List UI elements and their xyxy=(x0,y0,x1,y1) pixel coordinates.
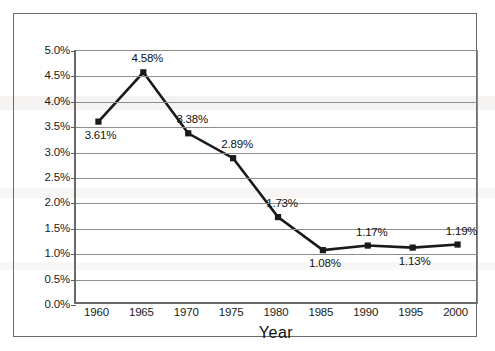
data-point-label: 1.08% xyxy=(309,257,341,269)
y-axis-tick-labels: 0.0%0.5%1.0%1.5%2.0%2.5%3.0%3.5%4.0%4.5%… xyxy=(27,50,70,304)
data-point-marker xyxy=(185,130,191,136)
x-axis-tick-label: 1975 xyxy=(219,306,244,318)
y-axis-tick-label: 1.5% xyxy=(45,222,70,234)
y-axis-tick-label: 3.0% xyxy=(45,146,70,158)
gridline xyxy=(76,127,477,128)
x-axis-tick-labels: 196019651970197519801985199019952000 xyxy=(74,306,478,324)
data-point-label: 3.61% xyxy=(85,129,117,141)
gridline xyxy=(76,229,477,230)
y-axis-tick xyxy=(71,153,76,154)
data-point-label: 2.89% xyxy=(221,138,253,150)
gridline xyxy=(76,280,477,281)
data-point-label: 1.17% xyxy=(356,226,388,238)
data-point-label: 3.38% xyxy=(176,113,208,125)
data-point-marker xyxy=(454,241,460,247)
gridline xyxy=(76,153,477,154)
y-axis-tick xyxy=(71,178,76,179)
data-point-marker xyxy=(275,214,281,220)
gridline xyxy=(76,76,477,77)
y-axis-tick-label: 5.0% xyxy=(45,44,70,56)
x-axis-tick-label: 1960 xyxy=(84,306,109,318)
data-point-label: 1.19% xyxy=(446,225,478,237)
data-point-marker xyxy=(365,242,371,248)
x-axis-title: Year xyxy=(74,324,478,342)
y-axis-tick-label: 2.0% xyxy=(45,196,70,208)
y-axis-tick xyxy=(71,254,76,255)
x-axis-tick-label: 1970 xyxy=(174,306,199,318)
y-axis-tick xyxy=(71,203,76,204)
gridline xyxy=(76,102,477,103)
y-axis-tick-label: 4.5% xyxy=(45,69,70,81)
y-axis-tick xyxy=(71,102,76,103)
y-axis-tick xyxy=(71,229,76,230)
y-axis-tick-label: 2.5% xyxy=(45,171,70,183)
data-point-label: 1.73% xyxy=(266,197,298,209)
x-axis-tick-label: 1995 xyxy=(398,306,423,318)
data-point-marker xyxy=(320,247,326,253)
y-axis-tick-label: 1.0% xyxy=(45,247,70,259)
data-point-marker xyxy=(410,245,416,251)
gridline xyxy=(76,178,477,179)
y-axis-tick-label: 0.5% xyxy=(45,273,70,285)
series-line xyxy=(98,72,457,250)
x-axis-tick-label: 1965 xyxy=(129,306,154,318)
data-point-label: 4.58% xyxy=(132,52,164,64)
data-point-marker xyxy=(95,119,101,125)
plot-area: 3.61%4.58%3.38%2.89%1.73%1.08%1.17%1.13%… xyxy=(74,50,478,304)
y-axis-tick xyxy=(71,280,76,281)
y-axis-tick xyxy=(71,127,76,128)
y-axis-tick-label: 0.0% xyxy=(45,298,70,310)
y-axis-tick xyxy=(71,76,76,77)
y-axis-tick-label: 3.5% xyxy=(45,120,70,132)
data-point-label: 1.13% xyxy=(399,255,431,267)
chart-frame: 0.0%0.5%1.0%1.5%2.0%2.5%3.0%3.5%4.0%4.5%… xyxy=(13,13,477,337)
x-axis-tick-label: 1990 xyxy=(353,306,378,318)
data-point-marker xyxy=(230,155,236,161)
data-point-marker xyxy=(140,69,146,75)
x-axis-tick-label: 1985 xyxy=(308,306,333,318)
y-axis-tick-label: 4.0% xyxy=(45,95,70,107)
x-axis-tick-label: 1980 xyxy=(264,306,289,318)
y-axis-tick xyxy=(71,51,76,52)
x-axis-tick-label: 2000 xyxy=(443,306,468,318)
